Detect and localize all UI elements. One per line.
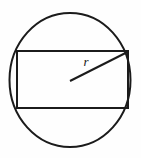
geometry-canvas: r <box>0 0 141 158</box>
geometry-figure: r <box>0 0 141 158</box>
radius-label: r <box>83 54 89 69</box>
radius-line <box>70 52 129 82</box>
